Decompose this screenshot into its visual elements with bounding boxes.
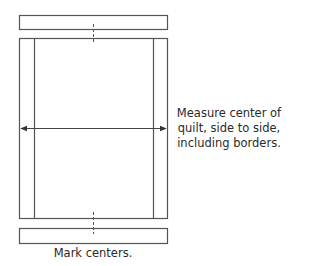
measure-instruction-line-1: Measure center of [174,106,284,121]
top-border-strip [20,16,168,30]
mark-centers-caption: Mark centers. [43,246,143,261]
measure-instruction: Measure center of quilt, side to side, i… [174,106,284,151]
measure-instruction-line-3: including borders. [174,136,284,151]
bottom-border-strip [20,229,168,244]
measure-instruction-line-2: quilt, side to side, [174,121,284,136]
